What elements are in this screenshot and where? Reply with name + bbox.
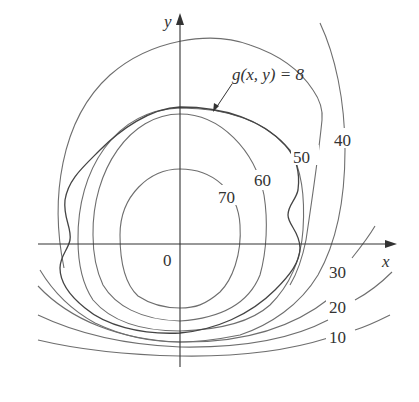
label-10: 10	[329, 328, 346, 347]
constraint-label: g(x, y) = 8	[232, 65, 304, 84]
constraint-pointer	[216, 84, 232, 108]
origin-label: 0	[163, 251, 172, 270]
label-30: 30	[329, 263, 346, 282]
level-curve-30	[38, 286, 330, 342]
label-60: 60	[254, 171, 271, 190]
label-50: 50	[293, 148, 310, 167]
level-curve-50	[78, 108, 304, 331]
y-axis-arrow-icon	[176, 13, 184, 25]
x-axis-label: x	[381, 252, 390, 271]
label-40: 40	[334, 131, 351, 150]
label-70: 70	[218, 188, 235, 207]
contour-diagram: y x 0 g(x, y) = 8 70 60 50 40 30 20 10	[0, 0, 419, 402]
label-20: 20	[329, 298, 346, 317]
x-axis-arrow-icon	[385, 240, 397, 248]
y-axis-label: y	[162, 12, 172, 31]
